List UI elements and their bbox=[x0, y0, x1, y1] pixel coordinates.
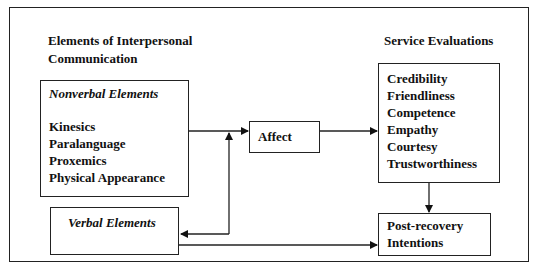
connector-arrows bbox=[0, 0, 539, 272]
